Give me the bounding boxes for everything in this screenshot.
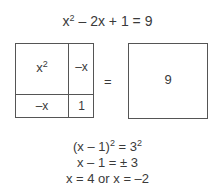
right-square-value: 9 xyxy=(164,72,171,87)
step-3: x = 4 or x = –2 xyxy=(0,171,215,187)
equation-base: x xyxy=(63,13,70,29)
step-1-exp2: 2 xyxy=(137,138,142,148)
step-1-middle: = 3 xyxy=(115,139,137,154)
equals-sign: = xyxy=(104,74,112,89)
left-area-square: x2 –x –x 1 xyxy=(15,43,94,118)
cell-x-exponent: 2 xyxy=(43,59,48,69)
step-2: x – 1 = ± 3 xyxy=(0,155,215,171)
cell-x-squared: x2 xyxy=(16,44,68,94)
cell-top-right: –x xyxy=(69,44,94,94)
top-equation: x2 – 2x + 1 = 9 xyxy=(0,13,215,29)
step-1-prefix: (x – 1) xyxy=(73,139,110,154)
equation-rest: – 2x + 1 = 9 xyxy=(75,13,153,29)
cell-bottom-left: –x xyxy=(16,95,68,118)
right-area-square: 9 xyxy=(128,43,208,119)
solution-steps: (x – 1)2 = 32 x – 1 = ± 3 x = 4 or x = –… xyxy=(0,139,215,187)
step-1: (x – 1)2 = 32 xyxy=(0,139,215,155)
cell-bottom-right: 1 xyxy=(69,95,94,118)
